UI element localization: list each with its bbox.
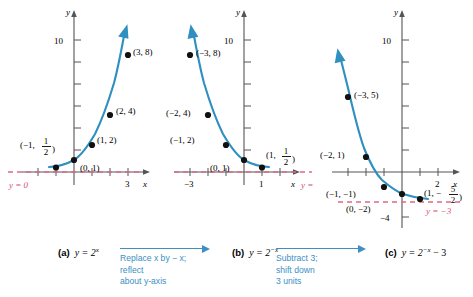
curve-arrowhead-b	[185, 23, 199, 39]
curve-c	[341, 60, 428, 199]
panel-a-graph: y x 10 3 (−1, 1 2 ) (0, 1) (1, 2) (2, 4)…	[0, 0, 158, 232]
asymptote-label-a: y = 0	[8, 180, 29, 190]
arrow-2-text-line3: 3 units	[276, 276, 376, 288]
y-axis-arrowhead-c	[399, 10, 405, 17]
arrow-1-line	[120, 244, 212, 253]
point-label-c-3: (0, −2)	[346, 204, 371, 214]
transformation-arrow-1: Replace x by − x; reflect about y-axis	[120, 244, 220, 288]
y-tick-label-10-a: 10	[54, 36, 64, 46]
asymptote-label-c: y = −3	[425, 206, 452, 216]
data-point-c-2	[381, 184, 387, 190]
point-label-c-4-num: 5	[451, 184, 456, 194]
x-axis-label-a: x	[142, 179, 147, 189]
y-axis-arrowhead-a	[71, 10, 77, 17]
point-label-b-3: (0, 1)	[210, 163, 230, 173]
point-label-b-4-prefix: (1,	[266, 150, 276, 160]
x-tick-label-1-b: 1	[259, 179, 264, 189]
transformation-arrow-2: Subtract 3; shift down 3 units	[276, 244, 376, 288]
y-axis-arrowhead-b	[241, 10, 247, 17]
point-label-c-1: (−2, 1)	[320, 150, 345, 160]
caption-eq-b: y = 2	[249, 247, 270, 258]
caption-panel-a: (a) y = 2x	[58, 246, 99, 258]
data-point-c-3	[399, 191, 405, 197]
y-tick-label-m4-c: −4	[380, 213, 390, 223]
y-axis-label-c: y	[393, 7, 398, 17]
data-point-a-1	[71, 157, 77, 163]
point-label-a-2: (1, 2)	[97, 135, 117, 145]
data-point-c-4	[417, 196, 423, 202]
y-axis-label-b: y	[235, 7, 240, 17]
caption-eq-c: y = 2	[402, 247, 423, 258]
data-point-a-0	[53, 164, 59, 170]
data-point-c-1	[363, 154, 369, 160]
point-label-a-3: (2, 4)	[116, 106, 136, 116]
point-label-c-0: (−3, 5)	[354, 90, 379, 100]
caption-tag-b: (b)	[232, 247, 244, 258]
point-label-b-4-num: 1	[284, 146, 289, 156]
caption-eq-a: y = 2	[75, 247, 96, 258]
arrow-1-text-line1: Replace x by − x;	[120, 253, 220, 265]
caption-row: (a) y = 2x Replace x by − x; reflect abo…	[0, 232, 473, 297]
arrow-2-head-icon	[358, 245, 366, 253]
x-tick-label-m3-b: −3	[184, 179, 194, 189]
data-point-c-0	[345, 94, 351, 100]
y-tick-label-10-b: 10	[224, 36, 234, 46]
arrow-2-text-line2: shift down	[276, 265, 376, 277]
arrow-2-text-line1: Subtract 3;	[276, 253, 376, 265]
caption-exp-a: x	[96, 246, 99, 254]
point-label-c-2: (−1, −1)	[326, 189, 356, 199]
point-label-a-0-suffix: )	[52, 144, 55, 154]
point-label-b-4: (1, 1 2 )	[266, 146, 295, 167]
point-label-a-0: (−1, 1 2 )	[20, 136, 55, 157]
arrow-1-shaft	[120, 248, 204, 249]
data-point-a-3	[107, 112, 113, 118]
point-label-b-2: (−1, 2)	[170, 135, 195, 145]
point-label-a-0-den: 2	[44, 147, 49, 157]
arrow-2-shaft	[276, 248, 360, 249]
panel-b-graph: y x 10 −3 1 (−3, 8) (−2, 4) (−1, 2) (0, …	[156, 0, 314, 232]
arrow-1-text-line2: reflect	[120, 265, 220, 277]
x-axis-arrowhead-c	[453, 169, 460, 175]
curve-arrowhead-c	[332, 47, 346, 63]
y-axis-label-a: y	[65, 7, 70, 17]
data-point-a-4	[125, 52, 131, 58]
arrow-1-head-icon	[202, 245, 210, 253]
x-tick-label-3-a: 3	[125, 179, 130, 189]
arrow-2-line	[276, 244, 368, 253]
point-label-c-4-den: 2	[451, 195, 456, 205]
point-label-a-0-prefix: (−1,	[20, 140, 35, 150]
point-label-b-4-den: 2	[284, 157, 289, 167]
data-point-a-2	[89, 142, 95, 148]
point-label-a-4: (3, 8)	[133, 47, 153, 57]
y-tick-label-10-c: 10	[382, 36, 392, 46]
curve-a	[49, 36, 124, 167]
caption-tag-a: (a)	[58, 247, 70, 258]
point-label-c-4-suffix: )	[459, 192, 462, 202]
caption-panel-b: (b) y = 2−x	[232, 246, 278, 258]
point-label-a-0-num: 1	[44, 136, 49, 146]
data-point-b-4	[259, 164, 265, 170]
x-axis-label-b: x	[290, 179, 295, 189]
point-label-c-4-prefix: (1, −	[424, 188, 441, 198]
caption-panel-c: (c) y = 2−x − 3	[385, 246, 446, 258]
curve-arrowhead-a	[118, 23, 131, 39]
arrow-1-text-line3: about y-axis	[120, 276, 220, 288]
point-label-b-0: (−3, 8)	[196, 48, 221, 58]
data-point-b-2	[223, 142, 229, 148]
caption-tag-c: (c)	[385, 247, 397, 258]
panel-c-graph: y x 10 −4 2 (−3, 5) (−2, 1) (−1, −1) (0,…	[310, 0, 468, 232]
data-point-b-1	[205, 112, 211, 118]
data-point-b-3	[241, 157, 247, 163]
caption-exp-c: −x	[423, 246, 431, 254]
x-axis-arrowhead-a	[143, 169, 150, 175]
caption-tail-c: − 3	[431, 247, 447, 258]
point-label-a-1: (0, 1)	[80, 163, 100, 173]
data-point-b-0	[187, 52, 193, 58]
point-label-b-1: (−2, 4)	[166, 108, 191, 118]
point-label-b-4-suffix: )	[292, 154, 295, 164]
